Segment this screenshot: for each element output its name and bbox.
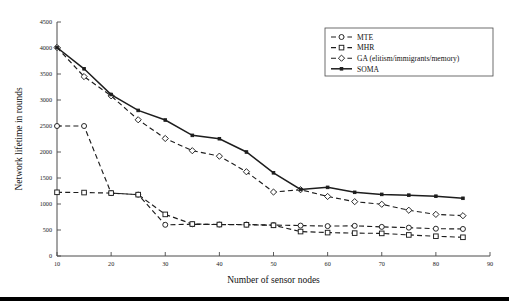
y-tick-label: 500 (43, 226, 52, 233)
data-point-marker (136, 192, 141, 197)
data-point-marker (379, 201, 385, 207)
line-chart: 050010001500200025003000350040004500 102… (0, 0, 509, 307)
y-tick-label: 2000 (40, 148, 52, 155)
data-point-marker (460, 213, 466, 219)
data-point-marker (325, 224, 330, 229)
y-tick-label: 1000 (40, 200, 52, 207)
y-axis-title: Network lifetime in rounds (14, 87, 24, 190)
y-tick-label: 4500 (40, 18, 52, 25)
data-point-marker (56, 46, 59, 49)
data-point-marker (162, 135, 168, 141)
data-point-marker (433, 226, 438, 231)
data-point-marker (216, 153, 222, 159)
data-point-marker (461, 235, 466, 240)
data-point-marker (352, 223, 357, 228)
data-point-marker (434, 234, 439, 239)
data-point-marker (407, 233, 412, 238)
data-point-marker (406, 225, 411, 230)
data-point-marker (82, 124, 87, 129)
legend-label: SOMA (357, 65, 379, 74)
data-point-marker (164, 119, 167, 122)
data-point-marker (408, 194, 411, 197)
data-point-marker (339, 45, 344, 50)
x-tick-label: 50 (270, 260, 276, 267)
y-tick-label: 2500 (40, 122, 52, 129)
data-point-marker (298, 223, 303, 228)
data-point-marker (163, 222, 168, 227)
data-point-marker (55, 190, 60, 195)
data-point-marker (435, 195, 438, 198)
data-point-marker (353, 191, 356, 194)
legend-label: MTE (357, 33, 373, 42)
data-point-marker (379, 224, 384, 229)
data-point-marker (380, 193, 383, 196)
x-tick-label: 10 (54, 260, 60, 267)
data-point-marker (379, 231, 384, 236)
x-tick-label: 60 (325, 260, 331, 267)
chart-figure: 050010001500200025003000350040004500 102… (0, 0, 509, 307)
data-point-marker (191, 134, 194, 137)
x-axis-ticks: 102030405060708090 (54, 252, 493, 267)
data-point-marker (272, 172, 275, 175)
x-tick-label: 20 (108, 260, 114, 267)
legend-label: GA (elitism/immigrants/memory) (357, 54, 460, 63)
data-point-marker (55, 124, 60, 129)
x-tick-label: 90 (487, 260, 493, 267)
x-tick-label: 80 (433, 260, 439, 267)
data-point-marker (462, 197, 465, 200)
data-point-marker (406, 207, 412, 213)
y-tick-label: 3500 (40, 70, 52, 77)
data-point-marker (135, 117, 141, 123)
data-point-marker (270, 189, 276, 195)
data-point-marker (299, 188, 302, 191)
legend-label: MHR (357, 43, 375, 52)
data-point-marker (245, 151, 248, 154)
data-point-marker (271, 223, 276, 228)
x-tick-label: 40 (216, 260, 222, 267)
x-axis-title: Number of sensor nodes (227, 275, 320, 285)
series-mhr (55, 190, 466, 240)
data-point-marker (325, 230, 330, 235)
data-point-marker (460, 226, 465, 231)
data-point-marker (82, 190, 87, 195)
y-tick-label: 0 (49, 252, 52, 259)
data-point-marker (137, 109, 140, 112)
data-point-marker (298, 229, 303, 234)
data-point-marker (325, 193, 331, 199)
data-point-marker (340, 68, 343, 71)
data-point-marker (339, 35, 344, 40)
y-tick-label: 1500 (40, 174, 52, 181)
data-point-marker (244, 223, 249, 228)
y-tick-label: 4000 (40, 44, 52, 51)
data-point-marker (352, 231, 357, 236)
data-point-marker (189, 148, 195, 154)
chart-legend: MTEMHRGA (elitism/immigrants/memory)SOMA (325, 28, 493, 76)
data-point-marker (218, 137, 221, 140)
data-point-marker (109, 191, 114, 196)
y-axis-ticks: 050010001500200025003000350040004500 (40, 18, 61, 259)
page-rule (0, 297, 509, 301)
data-point-marker (83, 68, 86, 71)
series-mte (55, 124, 466, 232)
data-point-marker (433, 211, 439, 217)
data-point-marker (352, 199, 358, 205)
x-tick-label: 70 (379, 260, 385, 267)
data-point-marker (110, 93, 113, 96)
x-tick-label: 30 (162, 260, 168, 267)
data-point-marker (163, 212, 168, 217)
data-point-marker (217, 222, 222, 227)
data-point-marker (190, 222, 195, 227)
data-point-marker (326, 186, 329, 189)
y-tick-label: 3000 (40, 96, 52, 103)
